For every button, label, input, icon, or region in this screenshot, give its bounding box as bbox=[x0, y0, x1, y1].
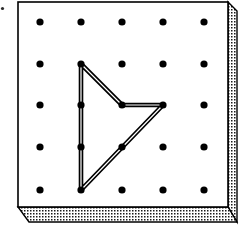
peg-a1[interactable] bbox=[36, 18, 43, 25]
peg-d2[interactable] bbox=[159, 60, 166, 67]
peg-a3[interactable] bbox=[36, 101, 43, 108]
peg-c3[interactable] bbox=[118, 101, 125, 108]
peg-b4[interactable] bbox=[77, 143, 84, 150]
peg-a4[interactable] bbox=[36, 143, 43, 150]
peg-d1[interactable] bbox=[159, 18, 166, 25]
peg-c5[interactable] bbox=[118, 186, 125, 193]
board-bottom-side-panel bbox=[18, 207, 237, 222]
geoboard-svg bbox=[0, 0, 239, 226]
peg-d3[interactable] bbox=[159, 101, 166, 108]
peg-e1[interactable] bbox=[200, 18, 207, 25]
geoboard-figure bbox=[0, 0, 239, 226]
peg-c2[interactable] bbox=[118, 60, 125, 67]
peg-d5[interactable] bbox=[159, 186, 166, 193]
screenshot-root bbox=[0, 0, 239, 226]
peg-e4[interactable] bbox=[200, 143, 207, 150]
peg-a2[interactable] bbox=[36, 60, 43, 67]
peg-c1[interactable] bbox=[118, 18, 125, 25]
peg-b1[interactable] bbox=[77, 18, 84, 25]
peg-c4[interactable] bbox=[118, 143, 125, 150]
peg-a5[interactable] bbox=[36, 186, 43, 193]
speck-artifact bbox=[1, 7, 4, 10]
peg-e3[interactable] bbox=[200, 101, 207, 108]
peg-e5[interactable] bbox=[200, 186, 207, 193]
peg-b5[interactable] bbox=[77, 186, 84, 193]
peg-b3[interactable] bbox=[77, 101, 84, 108]
peg-b2[interactable] bbox=[77, 60, 84, 67]
board-right-side-panel bbox=[228, 2, 237, 222]
peg-d4[interactable] bbox=[159, 143, 166, 150]
peg-e2[interactable] bbox=[200, 60, 207, 67]
